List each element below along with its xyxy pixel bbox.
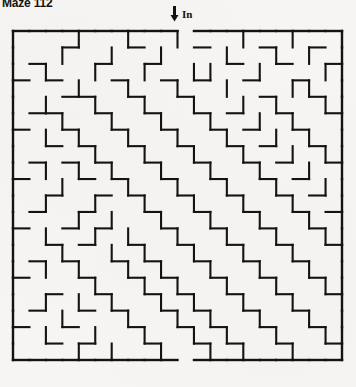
maze-page: Maze 112 In [0,0,356,387]
maze-wall-group [13,31,342,360]
maze-diagram [0,0,356,387]
maze-grid [0,0,356,387]
